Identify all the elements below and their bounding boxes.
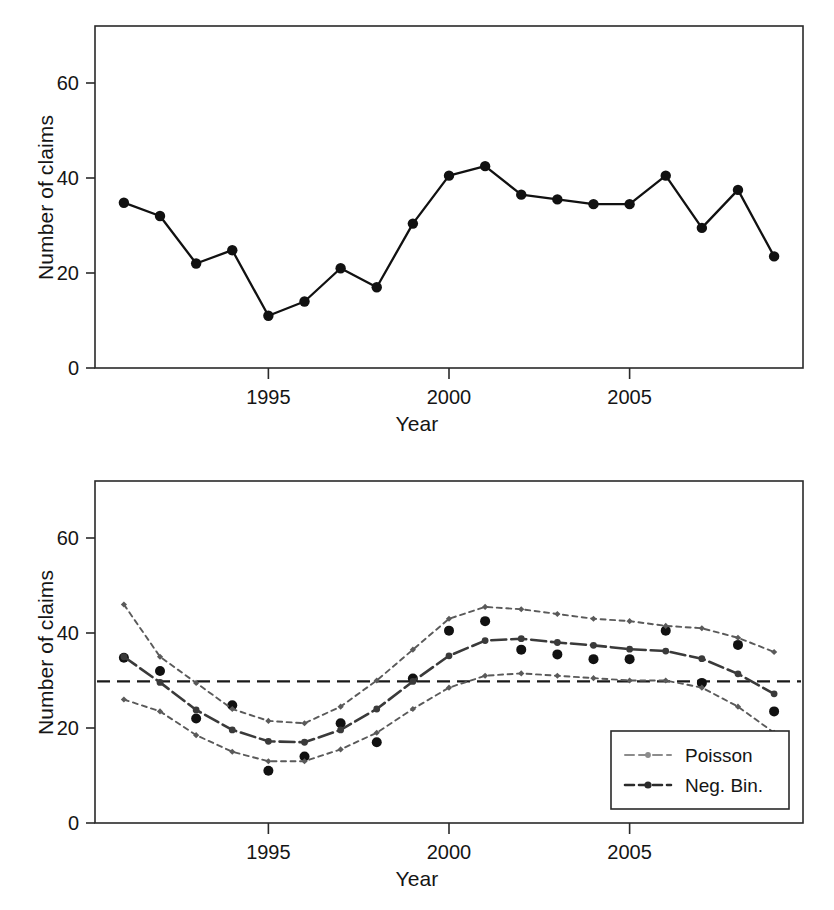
observed-series-panel: 0204060199520002005 Number of claims Yea… (0, 0, 834, 455)
fitted-mean-marker (157, 679, 164, 686)
confidence-band-marker (265, 758, 271, 764)
confidence-band-marker (518, 670, 524, 676)
observed-data-point (552, 194, 562, 204)
fitted-mean-marker (301, 739, 308, 746)
confidence-band-marker (229, 749, 235, 755)
confidence-band-marker (518, 606, 524, 612)
fitted-model-plot: 0204060199520002005PoissonNeg. Bin. (0, 455, 834, 910)
confidence-band-marker (771, 649, 777, 655)
confidence-band-marker (554, 611, 560, 617)
confidence-band-marker (627, 618, 633, 624)
x-axis-tick-label: 2005 (607, 841, 652, 863)
confidence-band-marker (482, 604, 488, 610)
fitted-mean-marker (698, 655, 705, 662)
fitted-mean-marker (409, 678, 416, 685)
observed-data-point (155, 666, 165, 676)
confidence-band-marker (265, 718, 271, 724)
observed-data-point (588, 199, 598, 209)
fitted-mean-marker (626, 646, 633, 653)
fitted-mean-marker (590, 642, 597, 649)
fitted-mean-marker (265, 738, 272, 745)
fitted-mean-marker (662, 648, 669, 655)
observed-data-point (191, 714, 201, 724)
observed-data-point (769, 251, 779, 261)
y-axis-title: Number of claims (34, 570, 58, 735)
confidence-band-marker (663, 677, 669, 683)
confidence-band-marker (627, 677, 633, 683)
observed-series-line (124, 166, 774, 316)
y-axis-tick-label: 0 (68, 812, 79, 834)
observed-data-point (624, 199, 634, 209)
y-axis-tick-label: 40 (57, 622, 79, 644)
confidence-band-marker (338, 746, 344, 752)
observed-data-point (263, 311, 273, 321)
fitted-mean-marker (120, 653, 127, 660)
observed-data-point (444, 626, 454, 636)
fitted-mean-marker (518, 635, 525, 642)
observed-data-point (588, 654, 598, 664)
x-axis-tick-label: 1995 (246, 386, 291, 408)
x-axis-title: Year (0, 867, 834, 891)
x-axis-tick-label: 2000 (427, 841, 472, 863)
confidence-band-marker (699, 625, 705, 631)
confidence-band-marker (590, 675, 596, 681)
x-axis-tick-label: 1995 (246, 841, 291, 863)
y-axis-tick-label: 20 (57, 717, 79, 739)
legend-box (611, 731, 789, 809)
confidence-band-marker (554, 673, 560, 679)
confidence-band-marker (482, 673, 488, 679)
observed-data-point (444, 170, 454, 180)
observed-data-point (625, 654, 635, 664)
y-axis-tick-label: 20 (57, 262, 79, 284)
y-axis-tick-label: 0 (68, 357, 79, 379)
legend-marker-sample (644, 781, 651, 788)
fitted-mean-marker (229, 727, 236, 734)
observed-data-point (661, 170, 671, 180)
legend-marker-sample (645, 752, 651, 758)
observed-data-point (697, 223, 707, 233)
confidence-band-marker (590, 616, 596, 622)
confidence-band-marker (735, 635, 741, 641)
observed-data-point (769, 706, 779, 716)
observed-data-point (191, 258, 201, 268)
confidence-band-marker (301, 720, 307, 726)
x-axis-tick-label: 2005 (607, 386, 652, 408)
legend-item-label: Neg. Bin. (685, 775, 763, 796)
fitted-mean-marker (482, 637, 489, 644)
observed-data-point (119, 198, 129, 208)
observed-data-point (480, 616, 490, 626)
fitted-mean-marker (554, 639, 561, 646)
observed-data-point (733, 640, 743, 650)
fitted-mean-marker (337, 727, 344, 734)
observed-data-point (552, 649, 562, 659)
y-axis-tick-label: 60 (57, 527, 79, 549)
observed-data-point (299, 296, 309, 306)
y-axis-tick-label: 60 (57, 72, 79, 94)
fitted-mean-marker (193, 707, 200, 714)
x-axis-title: Year (0, 412, 834, 436)
y-axis-tick-label: 40 (57, 167, 79, 189)
observed-data-point (516, 645, 526, 655)
legend[interactable]: PoissonNeg. Bin. (611, 731, 789, 809)
observed-data-point (155, 211, 165, 221)
observed-data-point (372, 737, 382, 747)
confidence-band-line (124, 605, 774, 724)
observed-data-point (263, 766, 273, 776)
fitted-mean-marker (735, 670, 742, 677)
observed-data-point (227, 245, 237, 255)
fitted-mean-marker (373, 706, 380, 713)
fitted-model-panel: 0204060199520002005PoissonNeg. Bin. Numb… (0, 455, 834, 910)
legend-item-label: Poisson (685, 745, 753, 766)
fitted-mean-marker (771, 690, 778, 697)
x-axis-tick-label: 2000 (427, 386, 472, 408)
fitted-mean-marker (446, 652, 453, 659)
observed-data-point (408, 218, 418, 228)
figure-two-panel-claims-chart: 0204060199520002005 Number of claims Yea… (0, 0, 834, 910)
y-axis-title: Number of claims (34, 115, 58, 280)
observed-series-plot: 0204060199520002005 (0, 0, 834, 455)
observed-data-point (733, 185, 743, 195)
plot-frame (95, 26, 803, 368)
observed-data-point (480, 161, 490, 171)
observed-data-point (372, 282, 382, 292)
confidence-band-marker (121, 696, 127, 702)
